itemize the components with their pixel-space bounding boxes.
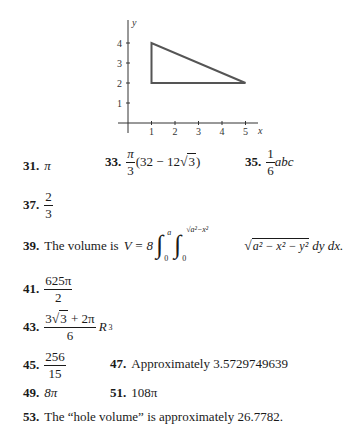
answer-number: 41. xyxy=(23,281,39,297)
outer-integral: ∫ a 0 xyxy=(156,228,174,264)
x-tick-label: 3 xyxy=(196,126,201,137)
answer-49: 49. 8π xyxy=(23,385,57,401)
integral-icon: ∫ xyxy=(156,232,163,258)
x-tick-label: 2 xyxy=(173,126,178,137)
integral-icon: ∫ xyxy=(174,232,181,258)
answer-33: 33. π 3 (32 − 12√3) xyxy=(105,147,200,177)
fraction: 1 6 xyxy=(266,147,275,177)
y-tick-label: 1 xyxy=(117,98,122,109)
sqrt-icon: √ xyxy=(244,238,252,254)
answer-number: 33. xyxy=(105,154,121,170)
answer-value: π xyxy=(44,158,51,174)
answer-number: 45. xyxy=(23,357,39,373)
inner-integral: ∫ √a²−x² 0 xyxy=(174,228,244,264)
answer-number: 51. xyxy=(110,385,126,401)
y-axis-label: y xyxy=(131,17,137,28)
region-graph: 1 2 3 4 5 1 2 3 4 x y xyxy=(0,0,340,140)
answer-number: 35. xyxy=(245,154,261,170)
fraction: 2 3 xyxy=(44,190,53,220)
fraction: π 3 xyxy=(126,147,135,177)
answer-number: 31. xyxy=(23,158,39,174)
fraction: 256 15 xyxy=(44,350,66,380)
x-tick-label: 1 xyxy=(149,126,154,137)
triangle-region xyxy=(152,43,246,83)
x-tick-label: 4 xyxy=(220,126,225,137)
answer-number: 53. xyxy=(23,409,39,425)
answer-number: 37. xyxy=(23,197,39,213)
answer-35: 35. 1 6 abc xyxy=(245,147,294,177)
answer-number: 43. xyxy=(23,319,39,335)
expression: (32 − 12√3) xyxy=(136,154,201,170)
answer-45: 45. 256 15 xyxy=(23,350,66,380)
answer-39: 39. The volume is V = 8 ∫ a 0 ∫ √a²−x² 0… xyxy=(23,228,343,264)
x-axis-label: x xyxy=(257,125,263,136)
fraction: 625π 2 xyxy=(44,274,72,304)
answer-51: 51. 108π xyxy=(110,385,157,401)
y-tick-label: 2 xyxy=(117,78,122,89)
answer-37: 37. 2 3 xyxy=(23,190,53,220)
answer-31: 31. π xyxy=(23,158,51,174)
x-tick-label: 5 xyxy=(243,126,248,137)
answer-number: 39. xyxy=(23,238,39,254)
answer-41: 41. 625π 2 xyxy=(23,274,72,304)
answer-47: 47. Approximately 3.5729749639 xyxy=(110,356,288,372)
y-tick-label: 3 xyxy=(117,58,122,69)
answer-number: 49. xyxy=(23,385,39,401)
fraction: 3√3 + 2π 6 xyxy=(44,312,95,343)
answer-43: 43. 3√3 + 2π 6 R3 xyxy=(23,312,113,343)
answer-53: 53. The “hole volume” is approximately 2… xyxy=(23,409,283,425)
answer-number: 47. xyxy=(110,356,126,372)
y-tick-label: 4 xyxy=(117,38,122,49)
